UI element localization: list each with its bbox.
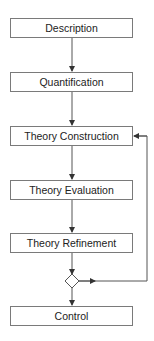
node-label: Description [45,22,98,34]
node-label: Control [55,310,89,322]
node-theory-refinement: Theory Refinement [10,233,133,253]
node-theory-construction: Theory Construction [10,126,133,146]
connectors [0,0,154,341]
node-label: Quantification [39,76,103,88]
node-label: Theory Refinement [27,237,116,249]
flowchart: Description Quantification Theory Constr… [0,0,154,341]
node-description: Description [10,18,133,38]
node-control: Control [10,306,133,326]
node-label: Theory Construction [24,130,119,142]
node-theory-evaluation: Theory Evaluation [10,180,133,200]
decision-diamond-icon [65,274,79,288]
node-label: Theory Evaluation [29,184,114,196]
node-quantification: Quantification [10,72,133,92]
feedback-loop-line [79,136,147,281]
